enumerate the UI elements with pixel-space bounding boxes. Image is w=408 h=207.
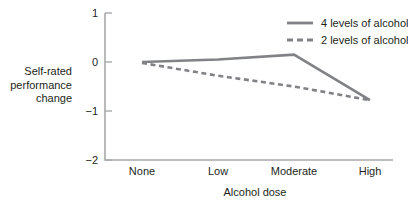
legend-label-2-levels: 2 levels of alcohol: [321, 34, 408, 46]
y-tick-label-0: 0: [78, 57, 98, 68]
legend-swatch-solid-icon: [286, 16, 314, 30]
series-line-2-levels: [142, 63, 370, 100]
y-axis-title-line3: change: [0, 92, 72, 106]
y-axis-title-line2: performance: [0, 79, 72, 93]
x-tick-label-high: High: [340, 165, 400, 177]
legend-label-4-levels: 4 levels of alcohol: [321, 17, 408, 29]
y-tick-label-neg1: −1: [74, 106, 98, 117]
legend-item-2-levels: 2 levels of alcohol: [286, 31, 408, 48]
y-tick-label-1: 1: [78, 8, 98, 19]
y-axis-title: Self-rated performance change: [0, 65, 72, 106]
y-axis-title-line1: Self-rated: [0, 65, 72, 79]
x-tick-label-moderate: Moderate: [258, 165, 330, 177]
legend-swatch-dashed-icon: [286, 33, 314, 47]
x-tick-label-none: None: [112, 165, 172, 177]
chart-legend: 4 levels of alcohol 2 levels of alcohol: [286, 14, 408, 48]
y-tick-label-neg2: −2: [74, 155, 98, 166]
x-axis-title: Alcohol dose: [140, 186, 370, 198]
x-tick-label-low: Low: [188, 165, 248, 177]
chart-figure: 1 0 −1 −2 Self-rated performance change …: [0, 0, 408, 207]
series-line-4-levels: [142, 55, 370, 101]
legend-item-4-levels: 4 levels of alcohol: [286, 14, 408, 31]
